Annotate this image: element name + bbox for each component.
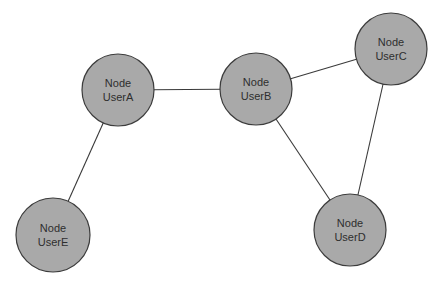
- node-label-line2: UserB: [241, 90, 272, 102]
- node-label-line2: UserC: [375, 50, 406, 62]
- node-label-line2: UserA: [103, 91, 134, 103]
- node-userc[interactable]: Node UserC: [355, 13, 427, 85]
- node-userd[interactable]: Node UserD: [314, 194, 386, 266]
- node-label-line1: Node: [337, 217, 363, 229]
- node-circle: [355, 13, 427, 85]
- node-label-line1: Node: [105, 77, 131, 89]
- node-label-line2: UserD: [334, 231, 365, 243]
- node-label-line1: Node: [40, 222, 66, 234]
- node-userb[interactable]: Node UserB: [220, 53, 292, 125]
- node-label-line2: UserE: [38, 236, 69, 248]
- network-diagram: Node UserA Node UserB Node UserC Node Us…: [0, 0, 439, 286]
- node-label-line1: Node: [378, 36, 404, 48]
- node-usere[interactable]: Node UserE: [16, 198, 90, 272]
- node-usera[interactable]: Node UserA: [82, 54, 154, 126]
- nodes-layer: Node UserA Node UserB Node UserC Node Us…: [16, 13, 427, 272]
- node-circle: [314, 194, 386, 266]
- node-circle: [220, 53, 292, 125]
- node-label-line1: Node: [243, 76, 269, 88]
- node-circle: [16, 198, 90, 272]
- node-circle: [82, 54, 154, 126]
